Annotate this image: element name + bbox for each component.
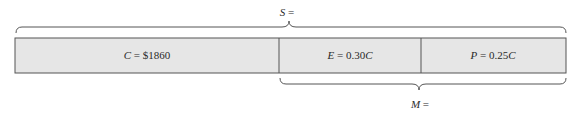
segment-e-label: E = 0.30C (327, 49, 372, 61)
top-brace (16, 21, 566, 33)
segment-p-label: P = 0.25C (470, 49, 515, 61)
bottom-brace-label: M = (411, 98, 429, 110)
bottom-brace (280, 78, 566, 90)
segment-c-label: C = $1860 (124, 49, 171, 61)
top-brace-label: S = (280, 6, 294, 18)
